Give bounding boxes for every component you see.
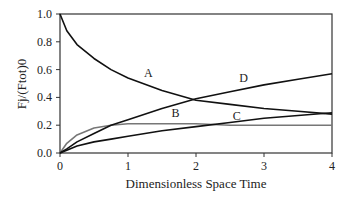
y-tick-label: 0.2: [37, 118, 52, 132]
x-tick-label: 3: [261, 159, 267, 173]
curve-label: D: [239, 71, 248, 85]
x-tick-label: 2: [193, 159, 199, 173]
y-tick-label: 0.0: [37, 146, 52, 160]
curve-label: B: [172, 106, 180, 120]
y-axis-label: Fj/(Ftot)0: [14, 59, 29, 110]
y-tick-label: 1.0: [37, 7, 52, 21]
y-tick-label: 0.8: [37, 35, 52, 49]
curve-label: C: [233, 109, 241, 123]
y-tick-label: 0.6: [37, 63, 52, 77]
x-tick-label: 1: [125, 159, 131, 173]
series-c: [60, 113, 332, 153]
series-b: [60, 124, 332, 153]
x-tick-label: 4: [329, 159, 335, 173]
plot-frame: [60, 14, 332, 153]
curve-label: A: [144, 66, 153, 80]
x-axis-label: Dimensionless Space Time: [126, 176, 267, 191]
line-chart: 012340.00.20.40.60.81.0 ABCD Dimensionle…: [0, 0, 350, 206]
chart: 012340.00.20.40.60.81.0 ABCD Dimensionle…: [0, 0, 350, 206]
y-tick-label: 0.4: [37, 90, 52, 104]
x-tick-label: 0: [57, 159, 63, 173]
